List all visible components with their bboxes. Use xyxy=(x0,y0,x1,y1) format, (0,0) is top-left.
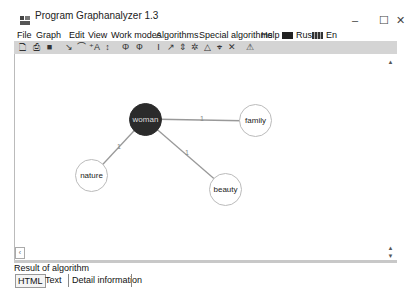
tab-html[interactable]: HTML xyxy=(15,274,46,288)
node-family[interactable]: family xyxy=(239,104,272,137)
node-nature-label: nature xyxy=(80,171,103,180)
node-woman[interactable]: woman xyxy=(129,103,162,136)
result-panel-label: Result of algorithm xyxy=(14,263,89,273)
tab-detail-information[interactable]: Detail information xyxy=(70,274,144,286)
graph-edges xyxy=(0,0,411,301)
node-woman-label: woman xyxy=(133,115,159,124)
tab-text[interactable]: Text xyxy=(43,274,64,286)
node-beauty[interactable]: beauty xyxy=(209,173,242,206)
node-nature[interactable]: nature xyxy=(75,159,108,192)
scroll-up-arrow[interactable]: ▲ xyxy=(387,58,394,66)
node-family-label: family xyxy=(245,116,266,125)
tab-separator xyxy=(68,274,69,287)
edge-weight-woman-family: 1 xyxy=(200,115,204,122)
edge-weight-woman-beauty: 1 xyxy=(185,149,189,156)
edge-weight-woman-nature: 1 xyxy=(117,143,121,150)
scroll-down-arrow[interactable]: ▼ xyxy=(387,252,394,260)
tab-separator xyxy=(131,274,132,287)
vertical-scrollbar[interactable]: ▲ ▲ ▼ xyxy=(384,54,397,260)
scroll-up-arrow-bottom[interactable]: ▲ xyxy=(387,244,394,252)
scroll-left-arrow[interactable]: ‹ xyxy=(15,247,25,259)
node-beauty-label: beauty xyxy=(213,185,237,194)
